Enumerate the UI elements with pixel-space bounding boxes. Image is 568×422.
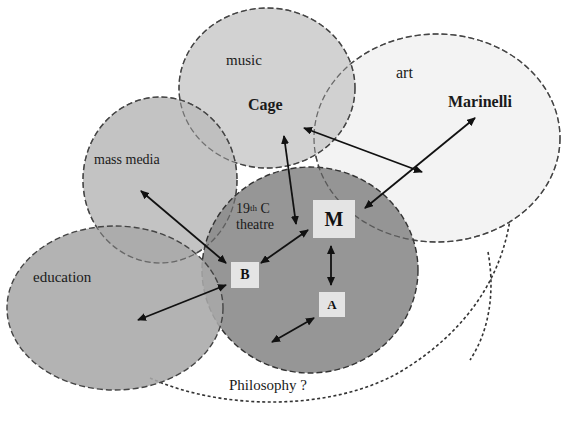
theatre-label: 19th C theatre [236, 201, 274, 233]
theatre-label-sup: th [250, 203, 257, 213]
cage-label: Cage [248, 97, 283, 113]
theatre-label-century: C [257, 201, 270, 216]
mass-media-label: mass media [94, 153, 160, 167]
theatre-label-number: 19 [236, 201, 250, 216]
venn-diagram-canvas [0, 0, 568, 422]
node-b: B [231, 262, 259, 288]
marinelli-label: Marinelli [448, 94, 512, 110]
philosophy-label: Philosophy ? [229, 378, 307, 393]
education-circle [7, 226, 223, 390]
music-label: music [226, 53, 262, 68]
node-m: M [313, 200, 355, 238]
theatre-label-word: theatre [236, 217, 274, 232]
art-label: art [396, 65, 413, 81]
education-label: education [33, 270, 91, 285]
node-a: A [319, 292, 345, 317]
